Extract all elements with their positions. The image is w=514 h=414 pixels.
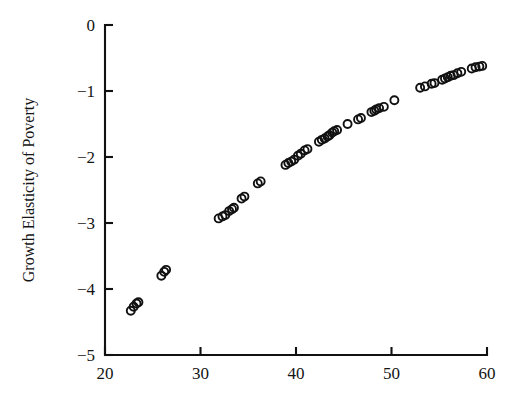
axis-lines	[105, 25, 487, 355]
x-tick-label: 30	[192, 364, 209, 383]
plot-canvas: 2030405060 0−1−2−3−4−5 Growth Elasticity…	[0, 0, 514, 414]
ticks-group	[105, 25, 487, 355]
x-tick-label: 50	[383, 364, 400, 383]
axes-group	[105, 25, 487, 355]
x-tick-label: 20	[97, 364, 114, 383]
data-point-marker	[390, 96, 398, 104]
data-points-group	[127, 62, 486, 315]
y-tick-label: −1	[77, 82, 95, 101]
x-tick-label: 60	[479, 364, 496, 383]
y-axis-title: Growth Elasticity of Poverty	[20, 98, 38, 282]
y-tick-label: −5	[77, 346, 95, 365]
y-tick-label: −3	[77, 214, 95, 233]
scatter-plot-figure: 2030405060 0−1−2−3−4−5 Growth Elasticity…	[0, 0, 514, 414]
y-tick-label: −2	[77, 148, 95, 167]
y-tick-labels: 0−1−2−3−4−5	[77, 16, 96, 365]
x-tick-labels: 2030405060	[97, 364, 496, 383]
y-tick-label: −4	[77, 280, 96, 299]
y-tick-label: 0	[87, 16, 96, 35]
x-tick-label: 40	[288, 364, 305, 383]
data-point-marker	[162, 266, 170, 274]
data-point-marker	[344, 120, 352, 128]
